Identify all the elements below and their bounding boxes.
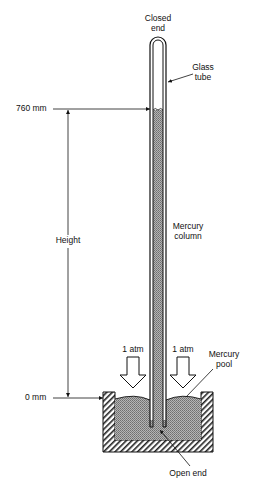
mercury-column-label: Mercury column xyxy=(168,222,208,241)
glass-tube xyxy=(150,37,166,427)
atm-left-label: 1 atm xyxy=(118,345,148,355)
mercury-pool-line2: pool xyxy=(204,360,244,370)
glass-tube-line2: tube xyxy=(187,73,219,83)
atm-right-label: 1 atm xyxy=(168,345,198,355)
height-label: Height xyxy=(53,236,83,246)
atm-arrow-left-icon xyxy=(120,357,146,388)
glass-tube-label: Glass tube xyxy=(187,63,219,82)
open-end-label: Open end xyxy=(166,469,210,479)
mercury-column-line2: column xyxy=(168,232,208,242)
bottom-level-label: 0 mm xyxy=(25,393,46,403)
closed-end-label: Closed end xyxy=(140,14,176,33)
top-level-label: 760 mm xyxy=(16,104,47,114)
closed-end-line2: end xyxy=(140,24,176,34)
height-dimension xyxy=(53,109,150,398)
mercury-pool-label: Mercury pool xyxy=(204,350,244,369)
atm-arrow-right-icon xyxy=(170,357,196,388)
